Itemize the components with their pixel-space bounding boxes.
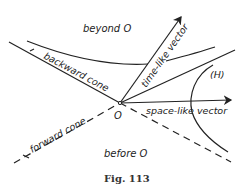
figure-caption: Fig. 113 <box>104 173 150 184</box>
time-like-label: time-like vector <box>139 21 191 89</box>
before-label: before O <box>104 148 148 159</box>
origin-label: O <box>114 110 122 121</box>
spacetime-cone-diagram: beyond O before O O space-like vector (H… <box>0 0 242 195</box>
hyperbola-label: (H) <box>210 69 225 80</box>
backward-cone-line <box>9 42 120 103</box>
space-like-label: space-like vector <box>146 105 228 116</box>
beyond-label: beyond O <box>83 23 131 34</box>
forward-cone-label: forward cone <box>28 115 88 155</box>
origin-point <box>118 101 121 104</box>
space-like-vector-arrow <box>120 100 231 103</box>
diagram-svg: beyond O before O O space-like vector (H… <box>0 0 242 195</box>
backward-cone-tick <box>30 49 34 51</box>
